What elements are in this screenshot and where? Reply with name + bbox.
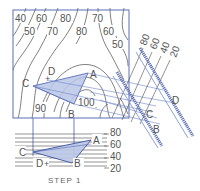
- contour-label: 90: [35, 103, 47, 114]
- edge-scale-label: 20: [168, 44, 182, 59]
- elev-scale-label: 80: [110, 127, 122, 138]
- contour-label: 60: [36, 13, 48, 24]
- elev-scale-label: 60: [110, 139, 122, 150]
- contour-label: 70: [47, 26, 59, 37]
- elev-point-label-a: A: [93, 135, 100, 146]
- elev-point-mark-d: +: [44, 159, 49, 169]
- contour-label: 100: [78, 97, 95, 108]
- contour-label: 70: [92, 13, 104, 24]
- contour-label: 80: [60, 13, 72, 24]
- elev-point-label-c: C: [19, 147, 26, 158]
- point-mark-d: +: [45, 74, 50, 84]
- contour-label: 80: [76, 26, 88, 37]
- elev-point-label-b: B: [74, 158, 81, 169]
- elev-scale-label: 20: [110, 163, 122, 174]
- contour-label: 60: [103, 26, 115, 37]
- figure-caption: STEP 1: [48, 176, 81, 185]
- edge-point-label-c: C: [146, 109, 153, 120]
- elev-scale-label: 40: [110, 151, 122, 162]
- contour-label: 40: [15, 13, 27, 24]
- elevation-view: C A D + B 80 60 40 20: [14, 118, 129, 174]
- contour-label: 50: [112, 39, 124, 50]
- edge-point-label-b: B: [153, 124, 160, 135]
- descriptive-geometry-figure: 40 60 80 70 50 70 80 60 50 90 100 C D +: [0, 0, 200, 191]
- edge-point-label-d: D: [172, 95, 179, 106]
- point-label-c: C: [22, 78, 29, 89]
- contour-label: 50: [24, 26, 36, 37]
- elev-point-label-d: D: [36, 158, 43, 169]
